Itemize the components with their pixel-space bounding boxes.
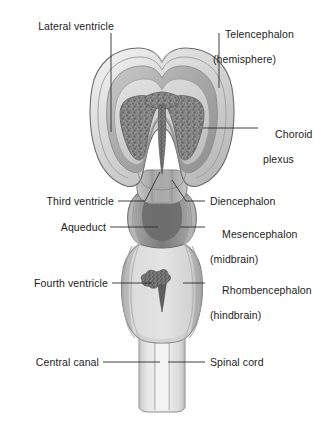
label-rhombencephalon: Rhombencephalon (hindbrain): [210, 271, 324, 346]
label-choroid-plexus: Choroid plexus: [263, 115, 324, 190]
brain-ventricle-diagram: Lateral ventricle Telencephalon (hemisph…: [0, 0, 324, 424]
label-aqueduct: Aqueduct: [36, 221, 106, 234]
label-telencephalon-line1: Telencephalon: [225, 28, 294, 40]
label-central-canal: Central canal: [14, 356, 99, 369]
label-rhombencephalon-line1: Rhombencephalon: [222, 284, 312, 296]
label-choroid-plexus-line2: plexus: [263, 153, 324, 166]
label-lateral-ventricle: Lateral ventricle: [14, 20, 114, 33]
label-spinal-cord: Spinal cord: [210, 356, 310, 369]
label-rhombencephalon-line2: (hindbrain): [210, 309, 324, 322]
label-diencephalon: Diencephalon: [210, 195, 324, 208]
label-choroid-plexus-line1: Choroid: [275, 128, 312, 140]
label-mesencephalon-line1: Mesencephalon: [222, 228, 297, 240]
label-telencephalon-line2: (hemisphere): [213, 53, 323, 66]
label-fourth-ventricle: Fourth ventricle: [18, 277, 108, 290]
diencephalon-shape: [137, 169, 187, 204]
label-telencephalon: Telencephalon (hemisphere): [213, 15, 323, 90]
rhombencephalon-shape: [122, 238, 203, 343]
label-third-ventricle: Third ventricle: [24, 195, 114, 208]
label-mesencephalon-line2: (midbrain): [210, 253, 324, 266]
